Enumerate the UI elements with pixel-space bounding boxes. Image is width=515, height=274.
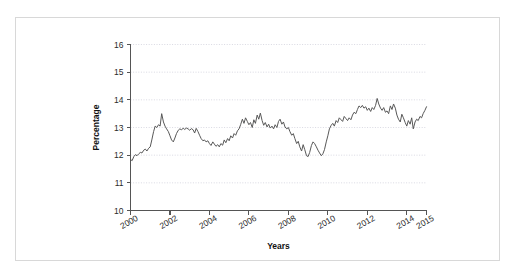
y-tick-label: 12 (114, 150, 124, 160)
x-tick-label: 2004 (197, 213, 219, 231)
y-tick-label: 16 (114, 40, 124, 50)
y-tick-label: 13 (114, 123, 124, 133)
x-tick-label: 2006 (237, 213, 259, 231)
y-axis-ticks-group: 10111213141516 (114, 40, 130, 216)
x-axis-title: Years (267, 241, 290, 251)
x-tick-label: 2014 (395, 213, 417, 231)
y-tick-label: 14 (114, 95, 124, 105)
data-series-line (131, 98, 427, 160)
x-axis-ticks-group: 200020022004200620082010201220142015 (118, 211, 436, 231)
x-tick-label: 2015 (414, 213, 436, 231)
figure-root: 10111213141516 2000200220042006200820102… (0, 0, 515, 274)
x-tick-label: 2002 (158, 213, 180, 231)
y-axis-title: Percentage (91, 104, 101, 150)
y-tick-label: 11 (115, 178, 124, 188)
gridlines-group (131, 45, 427, 211)
line-chart: 10111213141516 2000200220042006200820102… (0, 0, 515, 274)
x-tick-label: 2008 (276, 213, 298, 231)
x-tick-label: 2012 (355, 213, 377, 231)
x-tick-label: 2010 (316, 213, 338, 231)
y-tick-label: 15 (114, 67, 124, 77)
y-tick-label: 10 (114, 206, 124, 216)
